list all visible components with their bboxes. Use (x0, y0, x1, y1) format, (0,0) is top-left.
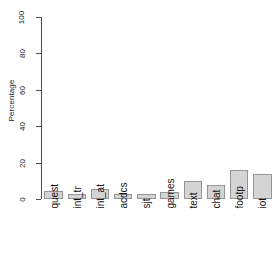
y-axis-tick-label: 100 (10, 12, 34, 22)
bar-chart: Percentage 020406080100 questint_trint_a… (0, 0, 276, 258)
y-axis-tick (36, 199, 41, 200)
x-axis-tick-label: iot (234, 201, 276, 215)
y-axis-title: Percentage (4, 0, 20, 200)
y-axis-tick (36, 163, 41, 164)
bar (253, 174, 272, 199)
plot-area (42, 17, 274, 199)
y-axis-tick (36, 90, 41, 91)
y-axis-tick-label-text: 80 (18, 49, 27, 58)
y-axis-tick-label: 40 (10, 121, 34, 131)
x-axis-tick-label-text: iot (257, 197, 268, 208)
y-axis-tick (36, 17, 41, 18)
y-axis-tick-label: 20 (10, 158, 34, 168)
y-axis-tick-label-text: 100 (17, 10, 26, 23)
y-axis-tick (36, 53, 41, 54)
y-axis-tick-label: 60 (10, 85, 34, 95)
y-axis-tick (36, 126, 41, 127)
y-axis-tick-label-text: 20 (18, 159, 27, 168)
y-axis-tick-label: 80 (10, 48, 34, 58)
y-axis-tick-label-text: 60 (18, 86, 27, 95)
y-axis-tick-label-text: 40 (18, 122, 27, 131)
